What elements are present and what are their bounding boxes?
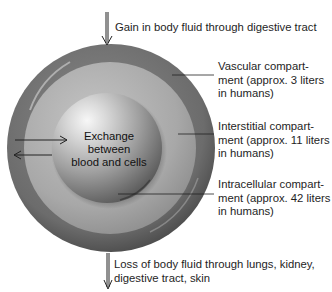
vascular-compartment-label: Vascular compart- ment (approx. 3 liters… [218,60,324,101]
gain-arrow-icon [102,12,112,45]
interstitial-compartment-label: Interstitial compart- ment (approx. 11 l… [218,120,330,161]
fluid-compartment-diagram: Gain in body fluid through digestive tra… [0,0,332,292]
loss-arrow-icon [104,253,112,289]
gain-label: Gain in body fluid through digestive tra… [115,21,317,35]
intracellular-compartment-label: Intracellular compart- ment (approx. 42 … [218,178,330,219]
loss-label: Loss of body fluid through lungs, kidney… [114,258,315,285]
exchange-label: Exchange between blood and cells [64,130,154,170]
